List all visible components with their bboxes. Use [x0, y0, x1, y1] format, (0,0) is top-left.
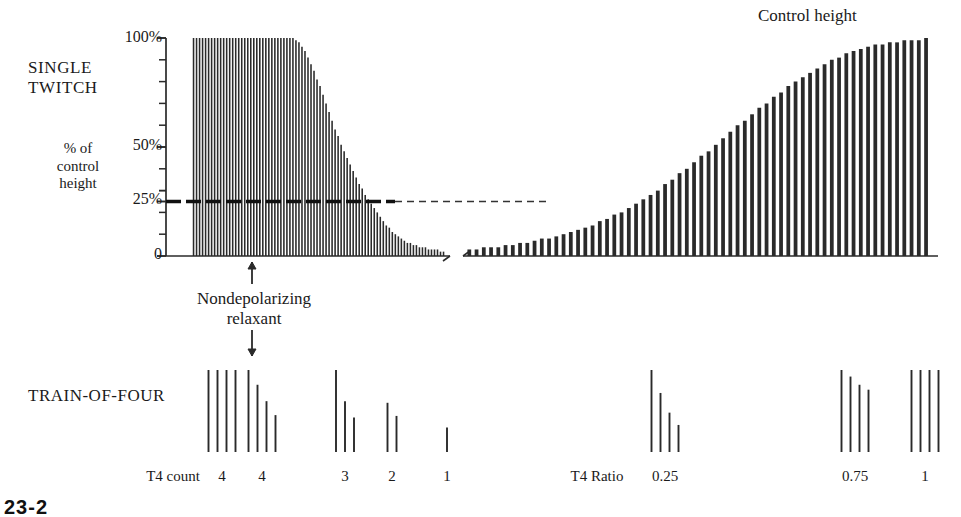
arrow-relaxant-to-tof-head	[248, 349, 256, 356]
tof-group-value-g8: 1	[921, 468, 929, 484]
nondepolarizing-relaxant-label: Nondepolarizing relaxant	[166, 289, 342, 329]
control-height-annotation: Control height	[758, 6, 857, 26]
panel-label-train-of-four: TRAIN-OF-FOUR	[28, 386, 165, 406]
y-tick-label-25: 25%	[96, 190, 162, 208]
tof-group-g3	[336, 370, 354, 452]
tof-group-g7	[842, 370, 869, 452]
y-tick-label-50: 50%	[96, 136, 162, 154]
panel-label-single-twitch: SINGLE TWITCH	[28, 58, 98, 98]
tof-group-g8	[912, 370, 939, 452]
figure-caption-partial: 23-2	[4, 496, 48, 517]
tof-group-value-g2: 4	[258, 468, 266, 484]
y-tick-label-100: 100%	[96, 28, 162, 46]
tof-group-value-g3: 3	[341, 468, 349, 484]
tof-group-value-g5: 1	[443, 468, 451, 484]
tof-group-value-g7: 0.75	[842, 468, 868, 484]
tof-group-value-g4: 2	[388, 468, 396, 484]
tof-count-row-label: T4 count	[118, 468, 228, 485]
tof-group-g1	[209, 370, 236, 452]
tof-group-g2	[249, 370, 276, 452]
y-tick-label-0: 0	[96, 245, 162, 263]
twitch-bars-recovery	[469, 38, 926, 256]
tof-group-g6	[652, 370, 679, 452]
tof-ratio-row-label: T4 Ratio	[552, 468, 642, 485]
tof-group-value-g6: 0.25	[652, 468, 678, 484]
twitch-bars-depression	[194, 38, 444, 256]
tof-group-g4	[388, 403, 397, 452]
figure-neuromuscular-monitoring: SINGLE TWITCH % of control height Contro…	[0, 0, 961, 517]
arrow-relaxant-to-twitch-axis-head	[248, 262, 256, 269]
